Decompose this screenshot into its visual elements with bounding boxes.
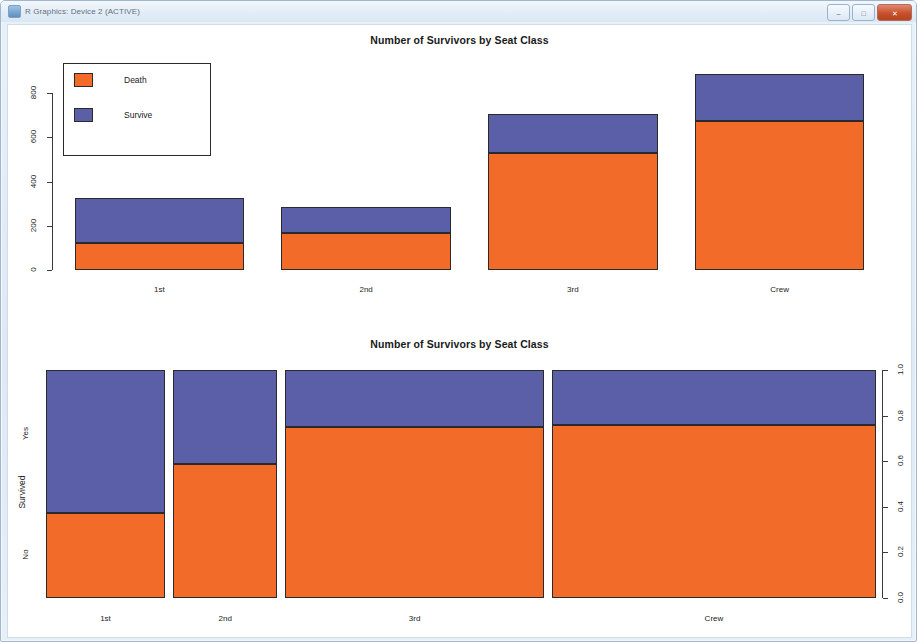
proportion-tick-label-0.0: 0.0 xyxy=(896,586,905,610)
mosaic-tile-survive-3rd[interactable] xyxy=(285,370,544,427)
mosaic-tile-survive-Crew[interactable] xyxy=(552,370,876,425)
legend-item-death: Death xyxy=(74,73,147,87)
x-tick-label-Crew: Crew xyxy=(752,285,808,294)
proportion-tick-0.4 xyxy=(883,507,888,508)
proportion-tick-1.0 xyxy=(883,370,888,371)
mosaic-y-axis-title: Survived xyxy=(17,464,27,520)
bar-death-Crew[interactable] xyxy=(695,121,865,270)
proportion-tick-0.6 xyxy=(883,461,888,462)
proportion-tick-0.0 xyxy=(883,598,888,599)
bar-survive-1st[interactable] xyxy=(75,198,245,243)
mosaic-tile-death-1st[interactable] xyxy=(46,513,165,599)
x-tick-label-3rd: 3rd xyxy=(545,285,601,294)
plot-canvas: Number of Survivors by Seat Class 020040… xyxy=(7,24,912,638)
window-controls: – □ ✕ xyxy=(827,4,912,21)
y-tick-400 xyxy=(47,182,52,183)
proportion-tick-label-0.2: 0.2 xyxy=(896,540,905,564)
maximize-icon: □ xyxy=(861,9,865,16)
window-title: R Graphics: Device 2 (ACTIVE) xyxy=(25,7,140,16)
y-category-label-yes: Yes xyxy=(21,422,30,444)
y-axis-line xyxy=(52,93,53,270)
mosaic-x-tick-label-2nd: 2nd xyxy=(197,614,253,623)
y-tick-label-200: 200 xyxy=(29,214,38,236)
title-bar[interactable]: R Graphics: Device 2 (ACTIVE) – □ ✕ xyxy=(1,1,916,22)
x-tick-label-2nd: 2nd xyxy=(338,285,394,294)
bar-survive-3rd[interactable] xyxy=(488,114,658,153)
proportion-tick-0.2 xyxy=(883,552,888,553)
mosaic-tile-death-2nd[interactable] xyxy=(173,464,277,598)
y-tick-200 xyxy=(47,226,52,227)
x-tick-label-1st: 1st xyxy=(131,285,187,294)
y-category-label-no: No xyxy=(21,543,30,565)
stacked-bar-title: Number of Survivors by Seat Class xyxy=(8,34,911,46)
mosaic-tile-survive-1st[interactable] xyxy=(46,370,165,513)
legend-label-survive: Survive xyxy=(124,110,152,120)
bar-death-3rd[interactable] xyxy=(488,153,658,270)
maximize-button[interactable]: □ xyxy=(852,4,875,21)
proportion-tick-label-0.4: 0.4 xyxy=(896,494,905,518)
r-graphics-icon xyxy=(8,5,21,18)
close-button[interactable]: ✕ xyxy=(877,4,912,21)
minimize-icon: – xyxy=(837,9,841,16)
legend-label-death: Death xyxy=(124,75,147,85)
y-tick-label-0: 0 xyxy=(29,259,38,281)
legend-swatch-death xyxy=(74,73,93,87)
y-tick-0 xyxy=(47,270,52,271)
bar-survive-2nd[interactable] xyxy=(281,207,451,233)
mosaic-x-tick-label-1st: 1st xyxy=(78,614,134,623)
mosaic-tile-survive-2nd[interactable] xyxy=(173,370,277,464)
proportion-tick-label-1.0: 1.0 xyxy=(896,358,905,382)
minimize-button[interactable]: – xyxy=(827,4,850,21)
mosaic-tile-death-Crew[interactable] xyxy=(552,425,876,598)
mosaic-tile-death-3rd[interactable] xyxy=(285,427,544,598)
legend-swatch-survive xyxy=(74,108,93,122)
y-tick-label-800: 800 xyxy=(29,82,38,104)
y-tick-600 xyxy=(47,137,52,138)
y-tick-label-600: 600 xyxy=(29,126,38,148)
proportion-tick-0.8 xyxy=(883,416,888,417)
y-tick-label-400: 400 xyxy=(29,170,38,192)
proportion-axis-line xyxy=(882,370,883,598)
close-icon: ✕ xyxy=(892,9,898,16)
proportion-tick-label-0.8: 0.8 xyxy=(896,403,905,427)
y-tick-800 xyxy=(47,93,52,94)
mosaic-x-tick-label-3rd: 3rd xyxy=(387,614,443,623)
legend-item-survive: Survive xyxy=(74,108,152,122)
r-graphics-window: R Graphics: Device 2 (ACTIVE) – □ ✕ Numb… xyxy=(0,0,917,642)
bar-death-2nd[interactable] xyxy=(281,233,451,270)
proportion-tick-label-0.6: 0.6 xyxy=(896,449,905,473)
bar-death-1st[interactable] xyxy=(75,243,245,270)
bar-survive-Crew[interactable] xyxy=(695,74,865,121)
mosaic-title: Number of Survivors by Seat Class xyxy=(8,338,911,350)
mosaic-x-tick-label-Crew: Crew xyxy=(686,614,742,623)
